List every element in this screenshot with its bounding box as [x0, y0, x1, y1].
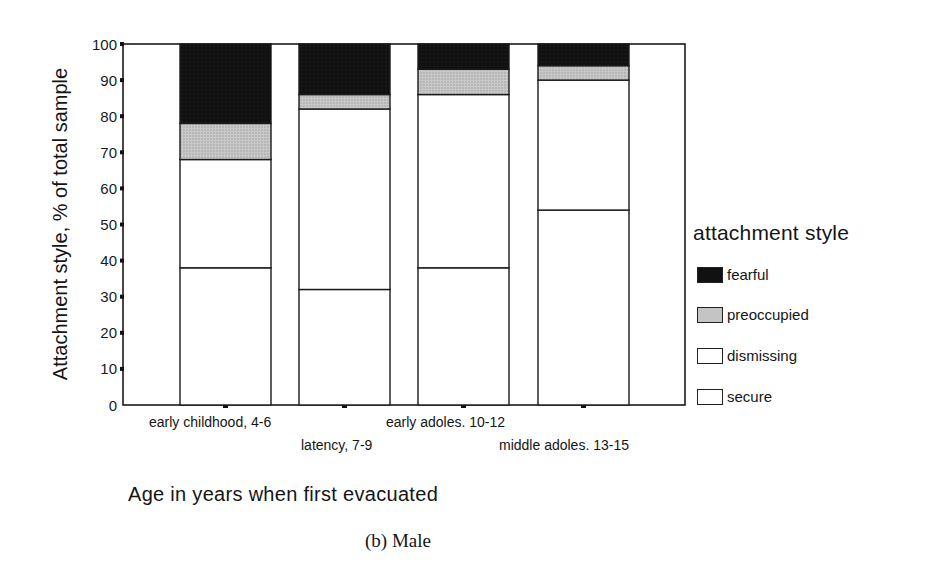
svg-text:60: 60 [100, 180, 117, 197]
segment-dismissing [538, 80, 629, 210]
segment-preoccupied [538, 66, 629, 80]
segment-fearful [418, 44, 509, 69]
segment-secure [418, 268, 509, 405]
svg-text:80: 80 [100, 108, 117, 125]
legend-item-dismissing: dismissing [697, 347, 797, 364]
svg-text:20: 20 [100, 324, 117, 341]
category-label-latency: latency, 7-9 [301, 437, 372, 453]
segment-preoccupied [299, 95, 390, 109]
dismissing-swatch-icon [697, 348, 723, 364]
segment-preoccupied [418, 69, 509, 94]
bar-2 [418, 44, 509, 405]
figure-caption: (b) Male [365, 530, 431, 552]
bar-1 [299, 44, 390, 405]
segment-dismissing [299, 109, 390, 290]
svg-text:70: 70 [100, 144, 117, 161]
svg-text:10: 10 [100, 360, 117, 377]
segment-dismissing [180, 160, 271, 268]
svg-text:30: 30 [100, 288, 117, 305]
segment-fearful [538, 44, 629, 66]
preoccupied-swatch-icon [697, 307, 723, 323]
legend-label: secure [727, 388, 772, 405]
legend-item-preoccupied: preoccupied [697, 306, 809, 323]
segment-fearful [180, 44, 271, 123]
svg-text:100: 100 [92, 36, 117, 53]
segment-secure [538, 210, 629, 405]
legend-label: dismissing [727, 347, 797, 364]
y-axis-label: Attachment style, % of total sample [49, 68, 72, 380]
svg-text:0: 0 [109, 397, 117, 414]
legend-item-secure: secure [697, 388, 772, 405]
bar-3 [538, 44, 629, 405]
category-label-early-childhood: early childhood, 4-6 [149, 414, 271, 430]
legend-title: attachment style [693, 221, 849, 245]
fearful-swatch-icon [697, 267, 723, 283]
y-axis: 0102030405060708090100 [92, 36, 124, 414]
segment-preoccupied [180, 123, 271, 159]
legend-label: preoccupied [727, 306, 809, 323]
secure-swatch-icon [697, 389, 723, 405]
category-label-middle-adolescence: middle adoles. 13-15 [499, 437, 629, 453]
svg-text:50: 50 [100, 216, 117, 233]
segment-secure [180, 268, 271, 405]
segment-fearful [299, 44, 390, 95]
legend-label: fearful [727, 266, 769, 283]
x-axis-label: Age in years when first evacuated [128, 483, 438, 506]
svg-text:90: 90 [100, 72, 117, 89]
segment-dismissing [418, 95, 509, 268]
bar-0 [180, 44, 271, 405]
category-label-early-adolescence: early adoles. 10-12 [386, 414, 505, 430]
legend-item-fearful: fearful [697, 266, 769, 283]
svg-text:40: 40 [100, 252, 117, 269]
segment-secure [299, 289, 390, 405]
